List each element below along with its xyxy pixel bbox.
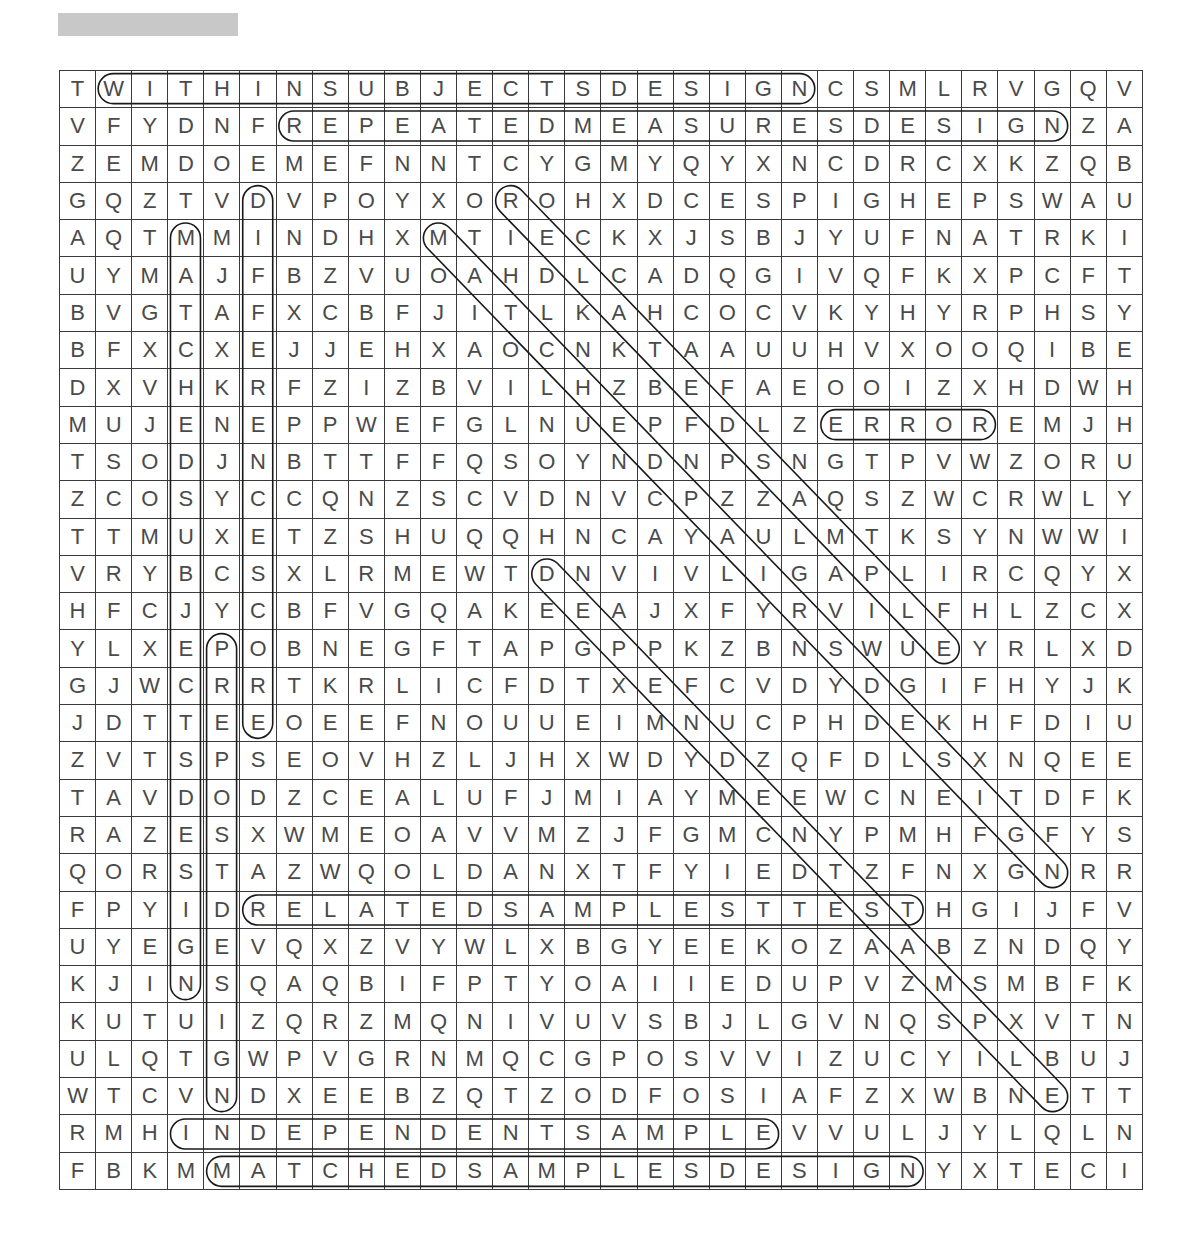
grid-cell[interactable]: E — [709, 966, 745, 1003]
grid-cell[interactable]: O — [457, 705, 493, 742]
grid-cell[interactable]: V — [96, 294, 132, 331]
grid-cell[interactable]: T — [457, 630, 493, 667]
grid-cell[interactable]: H — [384, 518, 420, 555]
grid-cell[interactable]: Q — [998, 332, 1034, 369]
grid-cell[interactable]: S — [168, 742, 204, 779]
grid-cell[interactable]: E — [348, 705, 384, 742]
grid-cell[interactable]: A — [1070, 182, 1106, 219]
grid-cell[interactable]: H — [890, 182, 926, 219]
grid-cell[interactable]: T — [276, 518, 312, 555]
grid-cell[interactable]: L — [1070, 1115, 1106, 1152]
grid-cell[interactable]: N — [998, 742, 1034, 779]
grid-cell[interactable]: C — [673, 182, 709, 219]
grid-cell[interactable]: C — [673, 294, 709, 331]
grid-cell[interactable]: I — [168, 1115, 204, 1152]
grid-cell[interactable]: T — [998, 220, 1034, 257]
grid-cell[interactable]: X — [601, 667, 637, 704]
grid-cell[interactable]: Q — [312, 481, 348, 518]
grid-cell[interactable]: S — [673, 108, 709, 145]
grid-cell[interactable]: B — [60, 294, 96, 331]
grid-cell[interactable]: X — [962, 145, 998, 182]
grid-cell[interactable]: W — [926, 1078, 962, 1115]
grid-cell[interactable]: C — [132, 1078, 168, 1115]
grid-cell[interactable]: S — [312, 71, 348, 108]
grid-cell[interactable]: R — [276, 108, 312, 145]
grid-cell[interactable]: T — [998, 1152, 1034, 1189]
grid-cell[interactable]: N — [781, 443, 817, 480]
grid-cell[interactable]: U — [854, 1115, 890, 1152]
grid-cell[interactable]: S — [204, 966, 240, 1003]
grid-cell[interactable]: F — [96, 332, 132, 369]
grid-cell[interactable]: K — [890, 518, 926, 555]
grid-cell[interactable]: I — [817, 1152, 853, 1189]
grid-cell[interactable]: H — [529, 518, 565, 555]
grid-cell[interactable]: T — [457, 108, 493, 145]
grid-cell[interactable]: J — [601, 816, 637, 853]
grid-cell[interactable]: O — [781, 928, 817, 965]
grid-cell[interactable]: C — [240, 481, 276, 518]
grid-cell[interactable]: F — [420, 630, 456, 667]
grid-cell[interactable]: V — [493, 816, 529, 853]
grid-cell[interactable]: V — [601, 555, 637, 592]
grid-cell[interactable]: P — [781, 182, 817, 219]
grid-cell[interactable]: D — [673, 257, 709, 294]
grid-cell[interactable]: Q — [312, 966, 348, 1003]
grid-cell[interactable]: M — [601, 145, 637, 182]
grid-cell[interactable]: T — [745, 891, 781, 928]
grid-cell[interactable]: I — [709, 71, 745, 108]
grid-cell[interactable]: E — [817, 891, 853, 928]
grid-cell[interactable]: Q — [132, 1040, 168, 1077]
grid-cell[interactable]: P — [457, 966, 493, 1003]
grid-cell[interactable]: F — [1070, 257, 1106, 294]
grid-cell[interactable]: F — [96, 593, 132, 630]
grid-cell[interactable]: E — [926, 779, 962, 816]
grid-cell[interactable]: C — [1034, 257, 1070, 294]
grid-cell[interactable]: D — [1034, 705, 1070, 742]
grid-cell[interactable]: Q — [781, 742, 817, 779]
grid-cell[interactable]: B — [745, 220, 781, 257]
grid-cell[interactable]: E — [276, 1115, 312, 1152]
grid-cell[interactable]: E — [890, 705, 926, 742]
grid-cell[interactable]: W — [348, 406, 384, 443]
grid-cell[interactable]: E — [312, 108, 348, 145]
grid-cell[interactable]: L — [890, 593, 926, 630]
grid-cell[interactable]: N — [601, 443, 637, 480]
grid-cell[interactable]: Q — [457, 1078, 493, 1115]
grid-cell[interactable]: G — [817, 443, 853, 480]
grid-cell[interactable]: U — [384, 257, 420, 294]
grid-cell[interactable]: D — [601, 71, 637, 108]
grid-cell[interactable]: I — [962, 1040, 998, 1077]
grid-cell[interactable]: C — [1070, 593, 1106, 630]
grid-cell[interactable]: Q — [240, 966, 276, 1003]
grid-cell[interactable]: M — [529, 816, 565, 853]
grid-cell[interactable]: U — [1106, 443, 1142, 480]
grid-cell[interactable]: Q — [96, 182, 132, 219]
grid-cell[interactable]: U — [1106, 182, 1142, 219]
grid-cell[interactable]: V — [348, 593, 384, 630]
grid-cell[interactable]: L — [96, 1040, 132, 1077]
grid-cell[interactable]: I — [926, 555, 962, 592]
grid-cell[interactable]: Y — [529, 145, 565, 182]
grid-cell[interactable]: W — [1070, 369, 1106, 406]
grid-cell[interactable]: S — [962, 966, 998, 1003]
grid-cell[interactable]: E — [817, 406, 853, 443]
grid-cell[interactable]: A — [637, 779, 673, 816]
grid-cell[interactable]: P — [637, 406, 673, 443]
grid-cell[interactable]: J — [709, 1003, 745, 1040]
grid-cell[interactable]: Q — [420, 1003, 456, 1040]
grid-cell[interactable]: T — [890, 891, 926, 928]
grid-cell[interactable]: F — [817, 742, 853, 779]
grid-cell[interactable]: V — [96, 742, 132, 779]
grid-cell[interactable]: V — [312, 1040, 348, 1077]
grid-cell[interactable]: I — [457, 294, 493, 331]
grid-cell[interactable]: W — [312, 854, 348, 891]
grid-cell[interactable]: U — [168, 1003, 204, 1040]
grid-cell[interactable]: E — [529, 593, 565, 630]
grid-cell[interactable]: D — [457, 891, 493, 928]
grid-cell[interactable]: T — [854, 443, 890, 480]
grid-cell[interactable]: A — [890, 928, 926, 965]
grid-cell[interactable]: O — [204, 779, 240, 816]
grid-cell[interactable]: D — [637, 443, 673, 480]
grid-cell[interactable]: N — [204, 1078, 240, 1115]
grid-cell[interactable]: E — [781, 779, 817, 816]
